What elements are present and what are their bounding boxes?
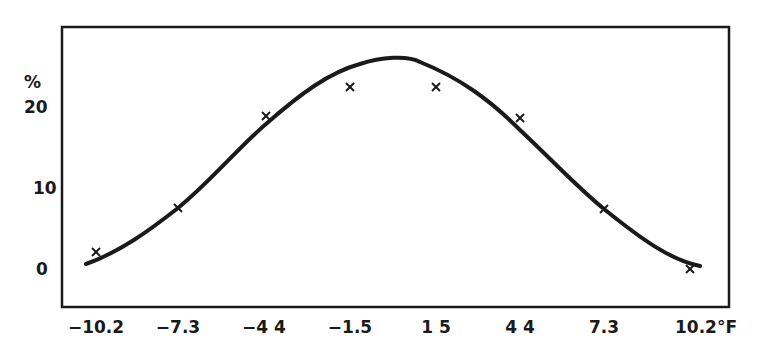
y-tick-10: 10: [33, 178, 57, 198]
chart-figure: % 20 10 0 −10.2 −7.3 −4 4 −1.5 1 5 4 4 7…: [0, 0, 758, 353]
plot-frame: [62, 27, 729, 307]
x-tick-4-4: 4 4: [505, 317, 535, 337]
x-tick-1-5: 1 5: [421, 317, 451, 337]
y-tick-0: 0: [36, 259, 48, 279]
marker-x-icon: [92, 248, 100, 256]
marker-x-icon: [346, 83, 354, 91]
marker-x-icon: [686, 265, 694, 273]
fitted-curve: [86, 58, 700, 266]
x-tick-10-2-unit: 10.2°F: [675, 317, 737, 337]
x-tick-neg-1-5: −1.5: [328, 317, 372, 337]
x-tick-neg-7-3: −7.3: [156, 317, 200, 337]
y-tick-20: 20: [24, 97, 48, 117]
observed-markers: [92, 83, 694, 273]
marker-x-icon: [516, 114, 524, 122]
x-tick-neg-10-2: −10.2: [68, 317, 124, 337]
x-tick-neg-4-4: −4 4: [242, 317, 286, 337]
x-tick-7-3: 7.3: [589, 317, 619, 337]
y-axis-unit-label: %: [24, 72, 41, 92]
marker-x-icon: [432, 83, 440, 91]
marker-x-icon: [262, 112, 270, 120]
